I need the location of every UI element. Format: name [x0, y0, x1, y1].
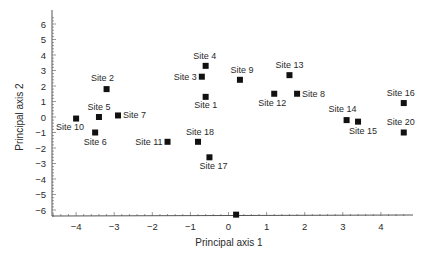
square-marker-icon	[355, 119, 361, 125]
square-marker-icon	[115, 112, 121, 118]
data-point: Site 18	[186, 127, 214, 145]
square-marker-icon	[294, 91, 300, 97]
square-marker-icon	[237, 77, 243, 83]
data-point: Site 8	[294, 89, 325, 99]
data-point: Site 10	[56, 116, 84, 132]
data-point: Site 14	[329, 104, 357, 123]
square-marker-icon	[233, 212, 239, 218]
y-tick-label: −5	[35, 189, 46, 200]
square-marker-icon	[286, 72, 292, 78]
data-point: Site 13	[275, 60, 303, 78]
y-tick-label: −3	[35, 158, 46, 169]
point-label: Site 18	[186, 127, 214, 137]
point-label: Site 16	[387, 88, 415, 98]
data-point: Site 12	[258, 91, 286, 108]
square-marker-icon	[401, 100, 407, 106]
point-label: Site 15	[349, 126, 377, 136]
square-marker-icon	[206, 154, 212, 160]
point-label: Site 3	[174, 72, 197, 82]
data-point: Site 15	[349, 119, 377, 136]
data-points: Site 1Site 2Site 3Site 4Site 5Site 6Site…	[56, 51, 415, 218]
point-label: Site 8	[302, 89, 325, 99]
point-label: Site 9	[230, 65, 253, 75]
x-axis-title: Principal axis 1	[195, 237, 263, 248]
x-tick-label: −1	[185, 221, 196, 232]
y-tick-label: 1	[41, 96, 46, 107]
point-label: Site 20	[387, 117, 415, 127]
y-tick-label: 0	[41, 112, 46, 123]
square-marker-icon	[199, 74, 205, 80]
point-label: Site 10	[56, 122, 84, 132]
y-tick-label: 4	[41, 50, 46, 61]
data-point: Site 11	[135, 137, 170, 147]
x-tick-label: −2	[147, 221, 158, 232]
point-label: Site 13	[275, 60, 303, 70]
square-marker-icon	[401, 130, 407, 136]
x-tick-label: −4	[71, 221, 82, 232]
y-axis-title: Principal axis 2	[14, 83, 25, 151]
x-tick-label: 4	[378, 221, 383, 232]
point-label: Site 4	[193, 51, 216, 61]
y-tick-label: 2	[41, 81, 46, 92]
point-label: Site 2	[91, 73, 114, 83]
y-tick-label: 5	[41, 34, 46, 45]
point-label: Site 5	[87, 102, 110, 112]
x-tick-label: −3	[109, 221, 120, 232]
scatter-chart: 6543210−1−2−3−4−5−6 −4−3−2−101234 Site 1…	[0, 0, 432, 257]
data-point: Site 5	[87, 102, 110, 120]
x-tick-label: 3	[340, 221, 345, 232]
data-point: Site 16	[387, 88, 415, 106]
data-point: Site 9	[230, 65, 253, 83]
data-point: Site 1	[194, 94, 217, 110]
x-axis-line	[52, 215, 413, 216]
y-tick-label: −6	[35, 205, 46, 216]
point-label: Site 17	[199, 161, 227, 171]
x-tick-label: 0	[226, 221, 231, 232]
point-label: Site 11	[135, 137, 162, 147]
data-point: Site 17	[199, 154, 227, 171]
square-marker-icon	[104, 86, 110, 92]
square-marker-icon	[165, 139, 171, 145]
y-axis: 6543210−1−2−3−4−5−6	[35, 10, 56, 216]
square-marker-icon	[96, 114, 102, 120]
square-marker-icon	[92, 130, 98, 136]
point-label: Site 7	[123, 110, 146, 120]
point-label: Site 1	[194, 100, 217, 110]
point-label: Site 14	[329, 104, 357, 114]
square-marker-icon	[271, 91, 277, 97]
data-point: Site 20	[387, 117, 415, 136]
data-point: Site 7	[115, 110, 146, 120]
data-point: Site 3	[174, 72, 205, 82]
square-marker-icon	[344, 117, 350, 123]
point-label: Site 12	[258, 98, 286, 108]
data-point: Site 2	[91, 73, 114, 92]
data-point	[233, 212, 239, 218]
data-point: Site 6	[84, 130, 107, 147]
point-label: Site 6	[84, 137, 107, 147]
x-tick-label: 1	[264, 221, 269, 232]
square-marker-icon	[203, 63, 209, 69]
y-tick-label: −1	[35, 127, 46, 138]
y-tick-label: 3	[41, 65, 46, 76]
data-point: Site 4	[193, 51, 216, 69]
y-tick-label: 6	[41, 19, 46, 30]
square-marker-icon	[195, 139, 201, 145]
x-tick-label: 2	[302, 221, 307, 232]
x-axis: −4−3−2−101234	[52, 212, 413, 232]
y-tick-label: −4	[35, 174, 46, 185]
y-tick-label: −2	[35, 143, 46, 154]
